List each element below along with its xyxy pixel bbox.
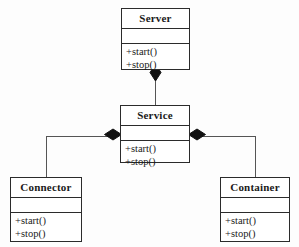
operation-stop: +stop(): [125, 156, 189, 169]
class-operations-container: +start() +stop(): [221, 213, 289, 242]
class-name-container: Container: [221, 178, 289, 198]
edge-service-container: [196, 137, 256, 179]
composition-diamond-service-right: [189, 129, 206, 140]
class-operations-connector: +start() +stop(): [11, 213, 81, 242]
class-name-service: Service: [121, 106, 189, 126]
class-operations-service: +start() +stop(): [121, 141, 189, 170]
class-attributes-container: [221, 198, 289, 213]
class-box-server[interactable]: Server +start() +stop(): [121, 8, 190, 70]
operation-stop: +stop(): [15, 228, 81, 241]
composition-diamond-service-left: [105, 129, 122, 140]
edge-service-connector: [47, 137, 115, 179]
class-operations-server: +start() +stop(): [122, 44, 189, 73]
class-box-service[interactable]: Service +start() +stop(): [120, 105, 190, 163]
operation-stop: +stop(): [126, 59, 189, 72]
class-box-container[interactable]: Container +start() +stop(): [220, 177, 290, 242]
operation-start: +start(): [225, 215, 289, 228]
operation-start: +start(): [15, 215, 81, 228]
operation-stop: +stop(): [225, 228, 289, 241]
operation-start: +start(): [125, 143, 189, 156]
uml-class-diagram: Server +start() +stop() Service +start()…: [0, 0, 299, 247]
class-attributes-service: [121, 126, 189, 141]
class-attributes-connector: [11, 198, 81, 213]
class-name-server: Server: [122, 9, 189, 29]
class-name-connector: Connector: [11, 178, 81, 198]
operation-start: +start(): [126, 46, 189, 59]
class-box-connector[interactable]: Connector +start() +stop(): [10, 177, 82, 242]
class-attributes-server: [122, 29, 189, 44]
